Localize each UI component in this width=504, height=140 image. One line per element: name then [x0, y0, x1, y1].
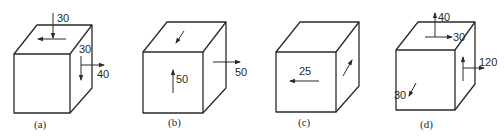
cube-a-right-normal-label: 40 [97, 68, 109, 80]
cube-d-front-shear-label: 30 [394, 89, 406, 101]
cube-d-top-normal-label: 40 [438, 11, 450, 23]
cube-d-caption: (d) [420, 118, 433, 131]
cube-b-top-face [143, 22, 226, 52]
cube-b-caption: (b) [168, 116, 181, 129]
cube-c-front-face [276, 52, 336, 112]
arrow-down-left-icon [176, 31, 184, 43]
arrow-down-left-icon [409, 83, 416, 96]
stress-element-figure: 30 30 40 (a) 50 50 (b) 25 (c) 40 30 [0, 0, 504, 140]
cube-d-front-face [396, 50, 455, 110]
cube-c-top-face [276, 22, 359, 52]
arrow-up-right-icon [343, 60, 352, 76]
cube-a-front-face [14, 54, 70, 113]
cube-c-front-shear-label: 25 [299, 65, 311, 77]
cube-a-right-shear-label: 30 [79, 43, 91, 55]
cube-d-right-normal-label: 120 [479, 56, 497, 68]
cube-b-right-face [203, 22, 226, 113]
cube-a-top-normal-label: 30 [57, 12, 69, 24]
cube-b-front-shear-label: 50 [176, 73, 188, 85]
cube-d-top-shear-label: 30 [453, 31, 465, 43]
cube-c-caption: (c) [298, 116, 311, 129]
cube-a: 30 30 40 (a) [14, 12, 109, 131]
cube-b: 50 50 (b) [143, 22, 247, 129]
cube-c: 25 (c) [276, 22, 359, 129]
cube-a-caption: (a) [34, 118, 47, 131]
cube-d: 40 30 120 30 (d) [394, 11, 497, 131]
cube-b-right-normal-label: 50 [235, 66, 247, 78]
